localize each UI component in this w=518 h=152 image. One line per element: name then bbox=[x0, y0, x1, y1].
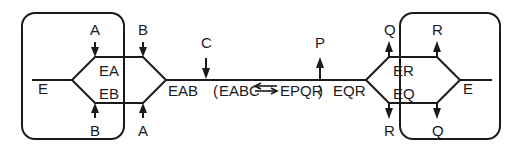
substrate-c-arrow-head bbox=[202, 68, 210, 79]
label-EAB: EAB bbox=[168, 82, 198, 99]
label-right-bottom-outer-Q: Q bbox=[432, 122, 444, 139]
right-top-outer-arrow-head bbox=[433, 41, 441, 52]
label-EB: EB bbox=[99, 85, 119, 102]
label-left-bottom-outer-A: A bbox=[138, 122, 148, 139]
label-left-bottom-inner-B: B bbox=[90, 122, 100, 139]
label-left-top-inner-A: A bbox=[90, 21, 100, 38]
right-bottom-inner-arrow-head bbox=[385, 108, 393, 119]
label-right-top-outer-R: R bbox=[432, 21, 443, 38]
label-left-top-outer-B: B bbox=[138, 21, 148, 38]
label-central-complex-left: EABC bbox=[219, 82, 260, 99]
label-ER: ER bbox=[393, 62, 414, 79]
label-EQ: EQ bbox=[393, 85, 415, 102]
right-bottom-outer-arrow-head bbox=[433, 108, 441, 119]
label-right-top-inner-Q: Q bbox=[384, 21, 396, 38]
label-EA: EA bbox=[99, 62, 119, 79]
left-bottom-outer-arrow-head bbox=[139, 103, 147, 113]
left-top-outer-arrow-head bbox=[139, 47, 147, 57]
right-top-inner-arrow-head bbox=[385, 41, 393, 52]
label-product-P: P bbox=[315, 34, 325, 51]
label-right-free-enzyme: E bbox=[463, 80, 473, 97]
label-EQR: EQR bbox=[333, 82, 366, 99]
label-right-bottom-inner-R: R bbox=[384, 122, 395, 139]
label-substrate-C: C bbox=[201, 34, 212, 51]
left-top-inner-arrow-head bbox=[91, 47, 99, 57]
label-left-free-enzyme: E bbox=[38, 80, 48, 97]
label-central-complex-right: EPQR bbox=[280, 82, 323, 99]
cleland-diagram: EA EB E A B B A EAB ( EABC bbox=[0, 0, 518, 152]
product-p-arrow-head bbox=[316, 57, 324, 68]
left-bottom-inner-arrow-head bbox=[91, 103, 99, 113]
label-central-complex-open: ( bbox=[213, 82, 218, 99]
label-central-complex-close: ) bbox=[318, 82, 323, 99]
right-enzyme-box bbox=[400, 13, 500, 139]
mechanism-svg: EA EB E A B B A EAB ( EABC bbox=[0, 0, 518, 152]
